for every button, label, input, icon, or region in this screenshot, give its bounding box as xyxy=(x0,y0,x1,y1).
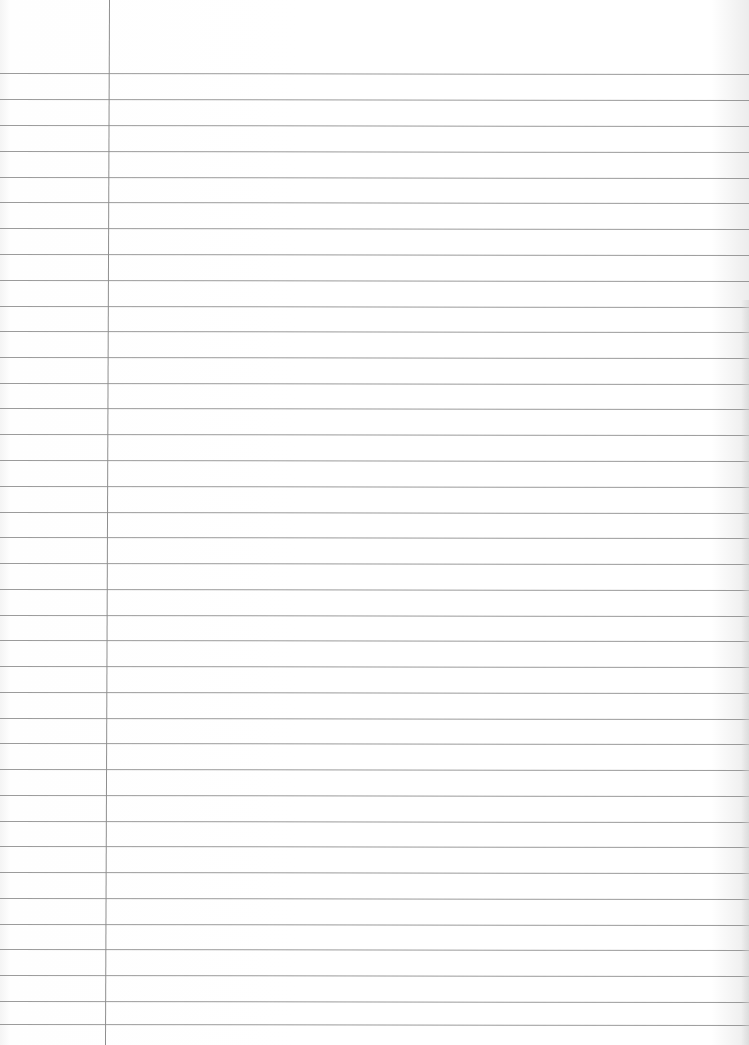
rule-line xyxy=(0,408,749,410)
rule-line xyxy=(0,795,749,797)
rule-line xyxy=(0,769,749,771)
rule-line xyxy=(0,692,749,694)
rule-line xyxy=(0,99,749,101)
rule-line xyxy=(0,589,749,591)
rule-line xyxy=(0,563,749,565)
rule-line xyxy=(0,821,749,823)
rule-line xyxy=(0,743,749,745)
margin-line xyxy=(105,0,110,1045)
rule-line xyxy=(0,640,749,642)
rule-line xyxy=(0,434,749,436)
rule-line xyxy=(0,1001,749,1003)
rule-line xyxy=(0,924,749,926)
rule-line xyxy=(0,537,749,539)
rule-line xyxy=(0,486,749,488)
rule-line xyxy=(0,846,749,848)
rule-line xyxy=(0,125,749,127)
rule-line xyxy=(0,202,749,204)
rule-line xyxy=(0,331,749,333)
rule-line xyxy=(0,975,749,977)
rule-line xyxy=(0,898,749,900)
rule-line xyxy=(0,357,749,359)
rule-line xyxy=(0,383,749,385)
rule-line xyxy=(0,615,749,617)
rule-line xyxy=(0,666,749,668)
rule-line xyxy=(0,718,749,720)
rule-line xyxy=(0,228,749,230)
rule-line xyxy=(0,280,749,282)
rule-line xyxy=(0,1024,749,1026)
lined-paper-sheet xyxy=(0,0,749,1045)
rule-line xyxy=(0,460,749,462)
rule-line xyxy=(0,512,749,514)
page-edge-shadow xyxy=(741,300,749,1045)
rule-line xyxy=(0,872,749,874)
rule-line xyxy=(0,73,749,75)
rule-line xyxy=(0,254,749,256)
rule-line xyxy=(0,151,749,153)
rule-line xyxy=(0,177,749,179)
rule-line xyxy=(0,306,749,308)
rule-line xyxy=(0,949,749,951)
